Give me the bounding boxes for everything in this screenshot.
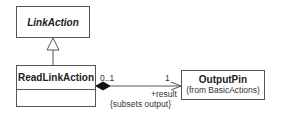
generalization-arrowhead-icon (47, 38, 59, 50)
class-output-pin: OutputPin (from BasicActions) (181, 70, 265, 100)
class-name-read-link-action: ReadLinkAction (17, 66, 95, 90)
class-read-link-action: ReadLinkAction (16, 65, 96, 107)
package-note: (from BasicActions) (182, 85, 264, 95)
class-link-action: LinkAction (16, 6, 90, 38)
association-constraint: {subsets output} (110, 99, 171, 109)
source-multiplicity: 0..1 (100, 73, 114, 83)
class-name-output-pin: OutputPin (182, 74, 264, 85)
target-multiplicity: 1 (165, 73, 170, 83)
class-name-link-action: LinkAction (27, 17, 79, 28)
target-role: +result (151, 89, 177, 99)
composite-diamond-icon (96, 82, 110, 90)
